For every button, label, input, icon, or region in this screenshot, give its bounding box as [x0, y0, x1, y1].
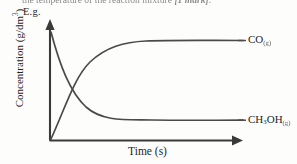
y-axis-title: Concentration (g/dm3): [13, 3, 25, 113]
y-axis-title-superscript: 3: [12, 12, 20, 16]
x-axis-arrowhead: [232, 136, 243, 146]
graph-canvas: [0, 0, 297, 164]
x-axis-title: Time (s): [50, 145, 245, 158]
curve-co: [51, 40, 243, 139]
series-label-ch3oh-formula-mid: OH: [267, 113, 283, 125]
y-axis-arrowhead: [45, 19, 54, 30]
concentration-time-graph: Concentration (g/dm3) Time (s) CO(g) CH3…: [0, 0, 297, 164]
y-axis-title-base: Concentration (g/dm: [13, 16, 25, 107]
figure-page: the temperature of the reaction mixture …: [0, 0, 297, 164]
y-axis-title-close: ): [13, 9, 25, 13]
series-label-ch3oh-formula: CH: [248, 113, 263, 125]
series-label-co-formula: CO: [248, 33, 263, 45]
series-label-co: CO(g): [248, 33, 271, 45]
x-axis: [50, 136, 244, 146]
series-label-ch3oh-state: (g): [283, 119, 291, 126]
series-label-ch3oh: CH3OH(g): [248, 113, 291, 125]
series-label-co-state: (g): [263, 39, 271, 46]
